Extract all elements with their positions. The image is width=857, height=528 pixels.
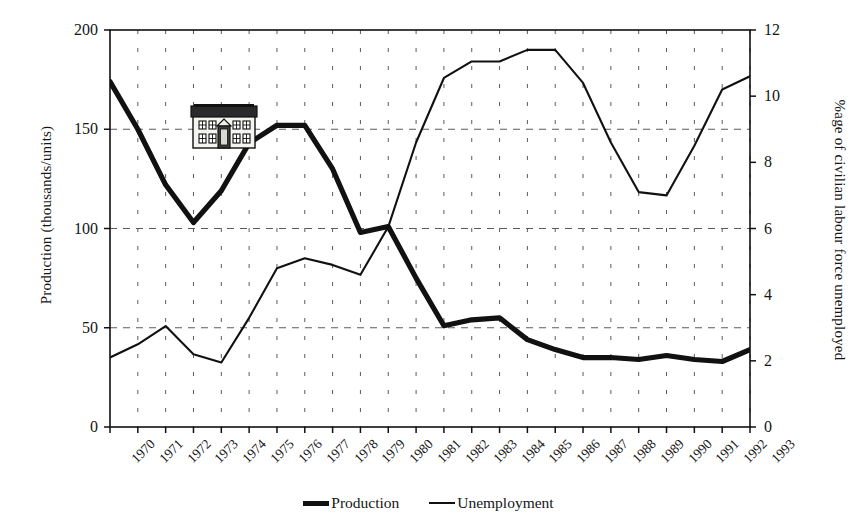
y-axis-left-tick: 100 bbox=[52, 221, 98, 237]
y-axis-left-tick: 150 bbox=[52, 121, 98, 137]
legend-swatch-production bbox=[303, 501, 329, 506]
y-axis-right-tick: 6 bbox=[764, 221, 810, 237]
y-axis-left-tick: 0 bbox=[52, 419, 98, 435]
legend-item-unemployment: Unemployment bbox=[429, 493, 553, 512]
y-axis-left-tick: 200 bbox=[52, 22, 98, 38]
y-axis-right-tick: 10 bbox=[764, 88, 810, 104]
y-axis-right-tick: 8 bbox=[764, 154, 810, 170]
chart-container: Production (thousands/units) %age of civ… bbox=[0, 0, 857, 528]
legend-item-production: Production bbox=[303, 493, 399, 512]
house-clipart-icon bbox=[188, 98, 260, 158]
chart-legend: Production Unemployment bbox=[0, 492, 857, 512]
legend-label-production: Production bbox=[331, 494, 399, 512]
legend-label-unemployment: Unemployment bbox=[457, 494, 553, 512]
y-axis-right-tick: 2 bbox=[764, 353, 810, 369]
y-axis-right-tick: 12 bbox=[764, 22, 810, 38]
y-axis-right-tick: 0 bbox=[764, 419, 810, 435]
legend-swatch-unemployment bbox=[429, 502, 455, 504]
y-axis-right-tick: 4 bbox=[764, 287, 810, 303]
y-axis-left-tick: 50 bbox=[52, 320, 98, 336]
